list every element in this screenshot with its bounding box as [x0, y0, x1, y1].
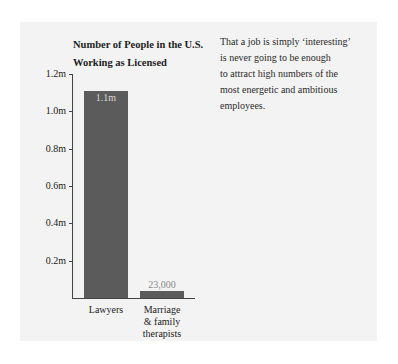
- y-tick-label: 0.8m: [22, 143, 66, 154]
- bar-therapists: [140, 291, 184, 298]
- quote-line: employees.: [220, 98, 370, 114]
- y-tick-label: 0.2m: [22, 255, 66, 266]
- y-tick-label: 0.4m: [22, 217, 66, 228]
- y-tick: [69, 149, 72, 150]
- y-tick: [69, 111, 72, 112]
- y-tick-label: 1.2m: [22, 68, 66, 79]
- y-tick-label: 0.6m: [22, 180, 66, 191]
- category-line: therapists: [132, 328, 192, 340]
- bar-value-label: 1.1m: [84, 92, 128, 103]
- chart-title: Number of People in the U.S. Working as …: [73, 36, 213, 72]
- category-line: Lawyers: [76, 304, 136, 316]
- category-line: & family: [132, 316, 192, 328]
- y-tick: [69, 261, 72, 262]
- y-tick: [69, 223, 72, 224]
- category-line: Marriage: [132, 304, 192, 316]
- quote-line: most energetic and ambitious: [220, 82, 370, 98]
- y-tick: [69, 74, 72, 75]
- y-axis: [72, 74, 73, 299]
- title-line: Working as Licensed: [73, 54, 213, 72]
- y-tick: [69, 186, 72, 187]
- y-tick-label: 1.0m: [22, 105, 66, 116]
- category-label: Marriage & family therapists: [132, 304, 192, 340]
- quote-text: That a job is simply ‘interesting’ is ne…: [220, 34, 370, 114]
- x-axis: [72, 298, 195, 299]
- bar-lawyers: [84, 91, 128, 298]
- title-line: Number of People in the U.S.: [73, 36, 213, 54]
- bar-value-label: 23,000: [136, 279, 188, 290]
- quote-line: to attract high numbers of the: [220, 66, 370, 82]
- quote-line: That a job is simply ‘interesting’: [220, 34, 370, 50]
- category-label: Lawyers: [76, 304, 136, 316]
- quote-line: is never going to be enough: [220, 50, 370, 66]
